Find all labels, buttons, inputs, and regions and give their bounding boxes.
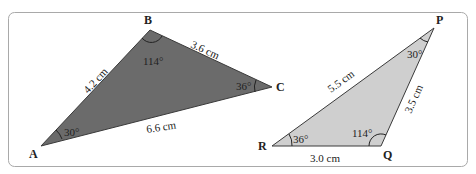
side-label-rq: 3.0 cm xyxy=(310,152,340,164)
angle-label-b: 114° xyxy=(143,55,164,67)
vertex-label-a: A xyxy=(29,147,38,161)
vertex-label-r: R xyxy=(258,139,267,153)
vertex-label-c: C xyxy=(276,80,285,94)
vertex-label-b: B xyxy=(144,13,152,27)
vertex-label-q: Q xyxy=(383,148,392,162)
angle-label-a: 30° xyxy=(64,126,79,138)
angle-label-c: 36° xyxy=(236,80,251,92)
angle-label-r: 36° xyxy=(293,133,308,145)
vertex-label-p: P xyxy=(436,13,443,27)
angle-label-q: 114° xyxy=(352,127,373,139)
angle-label-p: 30° xyxy=(407,48,422,60)
similar-triangles-figure: B C A 114° 36° 30° 4.2 cm 3.6 cm 6.6 cm … xyxy=(0,0,476,174)
